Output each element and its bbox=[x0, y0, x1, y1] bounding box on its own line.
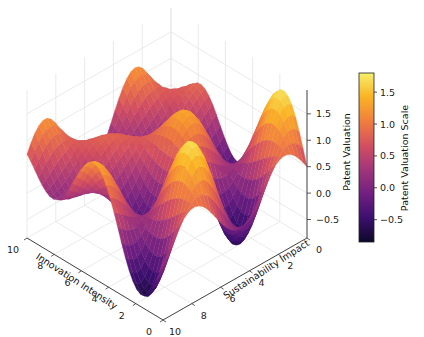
colorbar-tick-label: −0.5 bbox=[380, 214, 403, 225]
x-tick-label: 0 bbox=[146, 326, 152, 337]
colorbar-gradient bbox=[359, 73, 374, 242]
y-tick-label: 0 bbox=[316, 244, 322, 255]
colorbar-tick-label: 0.0 bbox=[380, 182, 395, 193]
surface-chart: 02468100246810−0.50.00.51.01.5 −0.50.00.… bbox=[0, 0, 424, 337]
z-tick-label: 0.0 bbox=[316, 188, 331, 199]
colorbar-label: Patent Valuation Scale bbox=[399, 105, 410, 211]
colorbar-tick-label: 0.5 bbox=[380, 150, 395, 161]
x-tick-label: 10 bbox=[7, 244, 19, 255]
x-tick-label: 2 bbox=[119, 310, 125, 321]
x-axis-label: Innovation Intensity bbox=[34, 251, 120, 312]
y-tick-label: 8 bbox=[201, 310, 207, 321]
z-tick-label: 1.5 bbox=[316, 108, 331, 119]
y-tick-label: 10 bbox=[169, 326, 181, 337]
colorbar-tick-label: 1.5 bbox=[380, 87, 395, 98]
y-tick-label: 2 bbox=[287, 260, 293, 271]
z-tick-label: −0.5 bbox=[316, 214, 339, 225]
colorbar-tick-label: 1.0 bbox=[380, 119, 395, 130]
z-tick-label: 0.5 bbox=[316, 161, 331, 172]
colorbar: −0.50.00.51.01.5 Patent Valuation Scale bbox=[359, 73, 410, 242]
z-tick-label: 1.0 bbox=[316, 135, 331, 146]
y-axis-label: Sustainability Impact bbox=[221, 237, 311, 301]
z-axis-label: Patent Valuation bbox=[341, 113, 352, 191]
